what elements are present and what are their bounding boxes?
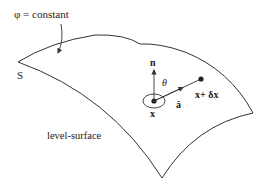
surface-top-edge — [18, 35, 253, 113]
normal-label: n — [150, 57, 156, 68]
surface-left-edge — [18, 62, 162, 178]
point-x-label: x — [150, 108, 155, 119]
surface-bottom-right-edge — [162, 113, 253, 178]
x-plus-dx-label: x+ δx — [195, 89, 218, 100]
corner-s-label: S — [17, 69, 23, 81]
constant-label: φ = constant — [14, 8, 69, 20]
a-hat-label: â — [176, 99, 181, 110]
point-x-plus-dx-dot — [198, 76, 203, 81]
theta-label: θ — [162, 77, 167, 88]
level-surface-label: level-surface — [47, 130, 102, 141]
curved-pointer-arrow — [58, 24, 62, 53]
level-surface-diagram: φ = constant S level-surface n θ â x x+ … — [0, 0, 267, 190]
